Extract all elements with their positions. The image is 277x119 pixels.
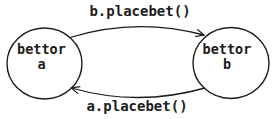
diagram-canvas: bettor a bettor b b.placebet() a.placebe… bbox=[0, 0, 277, 119]
bettor-state-diagram: bettor a bettor b b.placebet() a.placebe… bbox=[0, 0, 277, 119]
edge-a-to-b-label: b.placebet() bbox=[89, 3, 190, 19]
edge-a-to-b-arrow bbox=[70, 27, 204, 38]
node-bettor-b-label-line1: bettor bbox=[203, 41, 252, 57]
edge-b-to-a-arrow bbox=[72, 88, 206, 98]
node-bettor-b-label-line2: b bbox=[223, 56, 231, 72]
edge-b-to-a-label: a.placebet() bbox=[86, 98, 187, 114]
node-bettor-a-label-line1: bettor bbox=[17, 41, 66, 57]
node-bettor-a-label-line2: a bbox=[37, 56, 45, 72]
